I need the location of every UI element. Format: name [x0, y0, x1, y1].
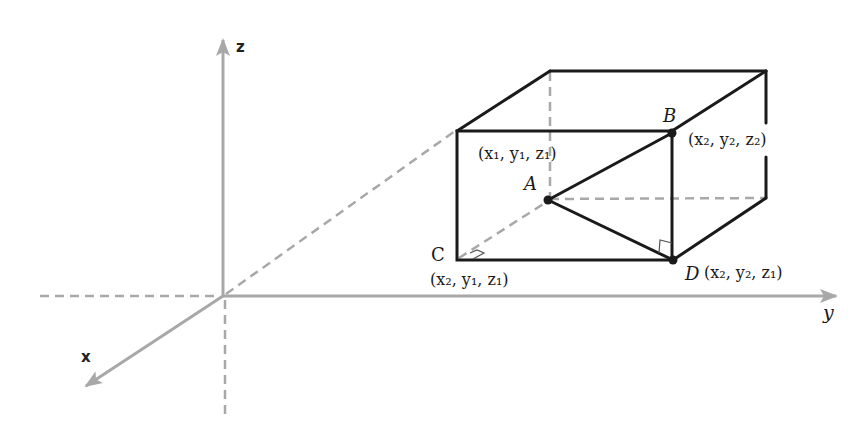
a-to-back-right-hidden-edge — [550, 198, 766, 199]
top-right-depth-edge — [672, 71, 766, 131]
point-a — [544, 196, 553, 205]
point-c-label: C — [431, 246, 445, 264]
points — [544, 129, 678, 265]
right-angle-mark-c — [470, 250, 484, 259]
point-b-coords: (x₂, y₂, z₂) — [688, 132, 767, 148]
top-left-depth-edge — [457, 71, 550, 131]
point-a-label: A — [524, 175, 537, 193]
y-axis-label: y — [823, 303, 834, 322]
segment-ab — [548, 133, 672, 200]
z-axis-label: z — [236, 40, 245, 55]
origin-to-box-dash — [226, 131, 455, 294]
point-c-coords: (x₂, y₁, z₁) — [430, 272, 509, 288]
x-axis — [86, 296, 223, 386]
c-to-a-hidden-edge — [459, 201, 548, 258]
point-a-coords: (x₁, y₁, z₁) — [478, 146, 557, 162]
point-d — [669, 256, 678, 265]
diagram-canvas — [0, 0, 867, 442]
point-b-label: B — [663, 107, 676, 125]
point-b — [668, 129, 677, 138]
segment-ad — [548, 200, 673, 260]
bottom-right-depth-edge — [673, 198, 766, 260]
point-d-label: D — [685, 265, 699, 283]
x-axis-label: x — [81, 350, 91, 365]
point-d-coords: (x₂, y₂, z₁) — [704, 265, 783, 281]
right-angle-mark-d — [659, 240, 672, 253]
